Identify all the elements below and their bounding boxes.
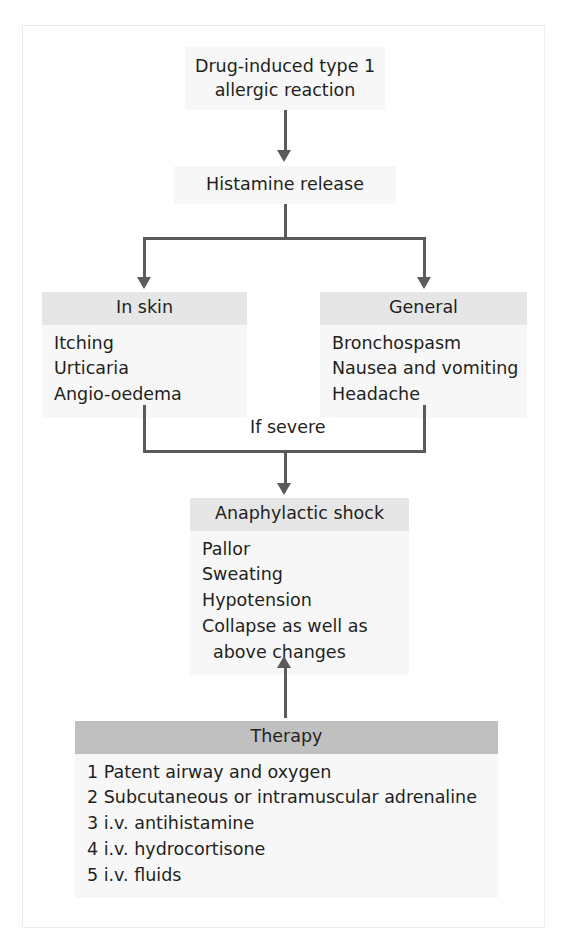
node-shock: Anaphylactic shock Pallor Sweating Hypot… [190, 498, 409, 675]
connector-mediator-stem [284, 204, 287, 239]
list-item: above changes [202, 640, 397, 666]
list-item: Angio-oedema [54, 382, 235, 408]
node-therapy: Therapy 1 Patent airway and oxygen 2 Sub… [75, 721, 498, 898]
node-therapy-header: Therapy [75, 721, 498, 754]
node-skin-header: In skin [42, 292, 247, 325]
list-item: Nausea and vomiting [332, 356, 515, 382]
list-item: Headache [332, 382, 515, 408]
edge-label-if-severe: If severe [243, 417, 332, 437]
node-general-header: General [320, 292, 527, 325]
node-mediator-label: Histamine release [206, 173, 364, 196]
list-item: Urticaria [54, 356, 235, 382]
list-item: 1 Patent airway and oxygen [87, 760, 486, 786]
list-item: Sweating [202, 562, 397, 588]
diagram-canvas: Drug-induced type 1 allergic reaction Hi… [0, 0, 570, 952]
list-item: Bronchospasm [332, 331, 515, 357]
arrow-to-shock-icon [277, 483, 291, 495]
connector-split-right [423, 237, 426, 279]
arrow-cause-to-mediator-icon [277, 150, 291, 162]
node-therapy-body: 1 Patent airway and oxygen 2 Subcutaneou… [75, 754, 498, 899]
connector-general-down [423, 405, 426, 453]
connector-split-bar [143, 237, 426, 240]
list-item: 5 i.v. fluids [87, 863, 486, 889]
node-cause-line2: allergic reaction [215, 79, 356, 102]
connector-merge-stem [284, 450, 287, 485]
node-mediator: Histamine release [174, 166, 396, 204]
connector-skin-down [143, 405, 146, 453]
node-shock-body: Pallor Sweating Hypotension Collapse as … [190, 531, 409, 676]
node-general: General Bronchospasm Nausea and vomiting… [320, 292, 527, 418]
list-item: 4 i.v. hydrocortisone [87, 837, 486, 863]
node-shock-header: Anaphylactic shock [190, 498, 409, 531]
node-skin-body: Itching Urticaria Angio-oedema [42, 325, 247, 418]
arrow-to-general-icon [417, 277, 431, 289]
list-item: Itching [54, 331, 235, 357]
connector-cause-to-mediator [284, 110, 287, 152]
connector-split-left [143, 237, 146, 279]
node-cause-line1: Drug-induced type 1 [195, 55, 375, 78]
list-item: Collapse as well as [202, 614, 397, 640]
node-cause: Drug-induced type 1 allergic reaction [185, 47, 385, 110]
connector-therapy-to-shock [284, 668, 287, 718]
arrow-to-skin-icon [137, 277, 151, 289]
list-item: Pallor [202, 537, 397, 563]
node-general-body: Bronchospasm Nausea and vomiting Headach… [320, 325, 527, 418]
list-item: Hypotension [202, 588, 397, 614]
list-item: 2 Subcutaneous or intramuscular adrenali… [87, 785, 486, 811]
arrow-to-shock-from-therapy-icon [277, 656, 291, 668]
list-item: 3 i.v. antihistamine [87, 811, 486, 837]
node-skin: In skin Itching Urticaria Angio-oedema [42, 292, 247, 418]
